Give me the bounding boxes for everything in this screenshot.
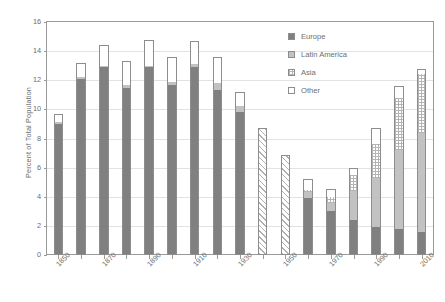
x-tick-label: 1990 [372, 251, 390, 269]
x-tick-mark [308, 255, 309, 259]
x-tick-label: 1910 [191, 251, 209, 269]
x-tick-label: 1870 [100, 251, 118, 269]
legend-item-europe[interactable]: Europe [288, 27, 408, 45]
legend-label: Europe [301, 32, 326, 41]
x-tick-label: 1950 [281, 251, 299, 269]
x-tick-label: 1850 [54, 251, 72, 269]
legend-item-other[interactable]: Other [288, 81, 408, 99]
legend-swatch-icon [288, 87, 295, 94]
x-tick-mark [354, 255, 355, 259]
x-tick-mark [81, 255, 82, 259]
legend-label: Asia [301, 68, 316, 77]
x-tick-label: 1890 [145, 251, 163, 269]
legend-swatch-icon [288, 51, 295, 58]
x-tick-label: 2010 [418, 251, 436, 269]
bar-chart: Percent of Total Population 024681012141… [0, 0, 445, 302]
x-tick-label: 1930 [236, 251, 254, 269]
legend-swatch-icon [288, 69, 295, 76]
x-tick-mark [217, 255, 218, 259]
x-tick-mark [399, 255, 400, 259]
x-tick-mark [126, 255, 127, 259]
x-tick-mark [263, 255, 264, 259]
legend-swatch-icon [288, 33, 295, 40]
legend-item-latin-america[interactable]: Latin America [288, 45, 408, 63]
legend-label: Other [301, 86, 320, 95]
x-tick-label: 1970 [327, 251, 345, 269]
legend: EuropeLatin AmericaAsiaOther [288, 27, 408, 99]
legend-item-asia[interactable]: Asia [288, 63, 408, 81]
x-tick-mark [172, 255, 173, 259]
legend-label: Latin America [301, 50, 347, 59]
